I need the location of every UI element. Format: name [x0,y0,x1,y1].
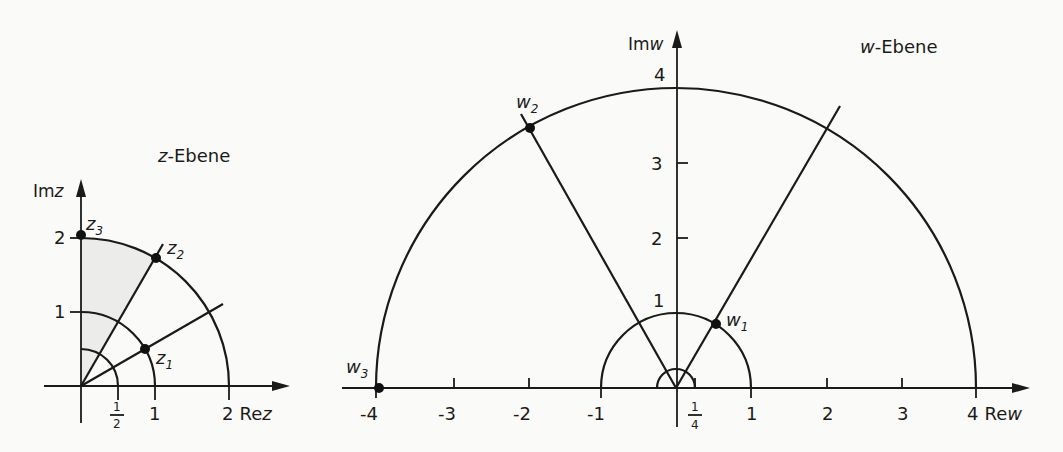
w1-point [711,319,721,329]
w-xtick-label-neg3: -3 [438,403,456,424]
w-xtick-label-2: 2 [822,403,833,424]
z-plane-title: z-Ebene [157,145,230,166]
w-ytick-label-4: 4 [654,64,665,85]
w-arc-r-4 [376,88,976,388]
z2-label: z2 [166,237,184,262]
z-real-axis-label: 2Rez [222,403,272,424]
w-real-axis-arrow-icon [1012,383,1030,393]
z-imag-axis-label: Imz [33,181,65,201]
w2-point [525,123,535,133]
z2-point [151,253,161,263]
w-xtick-label-neg2: -2 [513,403,531,424]
w-real-axis-label: 4Rew [967,403,1022,424]
z-plane: z-Ebene Imz 2Rez 1 1 2 1 2 z3 z2 z1 [33,145,290,431]
w3-point [374,383,384,393]
w-imag-axis-arrow-icon [672,30,682,48]
w-ray-60deg [676,106,840,388]
w-arc-r-quarter [657,369,695,388]
z-xtick-label-1: 1 [149,403,160,424]
w-xtick-label-neg4: -4 [360,403,378,424]
z-imag-axis-arrow-icon [76,179,86,197]
z-real-axis-arrow-icon [272,381,290,391]
z3-label: z3 [85,213,103,238]
w2-label: w2 [516,91,538,116]
w-xtick-label-1: 1 [746,403,757,424]
z-xtick-label-half-den: 2 [113,417,121,431]
w3-label: w3 [346,356,368,381]
z-xtick-label-half-num: 1 [113,400,121,414]
w-xtick-label-quarter-num: 1 [691,400,699,414]
z-ytick-label-1: 1 [54,301,65,322]
z3-point [76,230,86,240]
w-ytick-label-1: 1 [653,290,664,311]
w-plane-title: w-Ebene [860,36,938,57]
z1-point [140,344,150,354]
w-ytick-label-3: 3 [651,153,662,174]
w-xtick-label-neg1: -1 [587,403,605,424]
w-imag-axis-label: Imw [628,34,664,54]
w-xtick-label-quarter-den: 4 [691,418,699,432]
z-ytick-label-2: 2 [54,227,65,248]
w1-label: w1 [726,309,748,334]
w-xtick-label-3: 3 [897,403,908,424]
z1-label: z1 [155,347,173,372]
w-ytick-label-2: 2 [651,228,662,249]
w-plane: w-Ebene Imw 4 3 2 1 -4 -3 -2 -1 1 4 1 2 … [342,30,1030,432]
conformal-mapping-diagram: z-Ebene Imz 2Rez 1 1 2 1 2 z3 z2 z1 [0,0,1063,452]
